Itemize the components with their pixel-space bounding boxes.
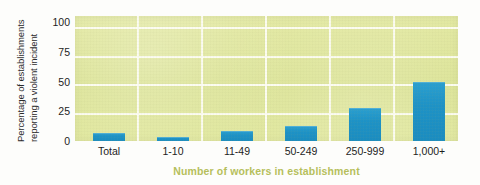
bar-1-10 xyxy=(157,137,189,141)
y-tick-label-50: 50 xyxy=(44,77,70,87)
y-tick-label-0: 0 xyxy=(44,136,70,146)
bar-250-999 xyxy=(349,108,381,141)
y-tick-label-100: 100 xyxy=(44,17,70,27)
bar-50-249 xyxy=(285,126,317,141)
gridline-x-5 xyxy=(393,16,395,141)
gridline-x-3 xyxy=(265,16,267,141)
x-tick-label-total: Total xyxy=(77,145,141,157)
x-axis-tick-labels: Total 1-10 11-49 50-249 250-999 1,000+ xyxy=(75,145,458,161)
gridline-x-4 xyxy=(329,16,331,141)
x-tick-label-1-10: 1-10 xyxy=(141,145,205,157)
bar-total xyxy=(93,133,125,141)
gridline-x-2 xyxy=(201,16,203,141)
x-tick-label-1000plus: 1,000+ xyxy=(397,145,461,157)
x-tick-label-250-999: 250-999 xyxy=(333,145,397,157)
y-axis-tick-labels: 100 75 50 25 0 xyxy=(40,0,70,185)
bar-chart-figure: Percentage of establishments reporting a… xyxy=(0,0,480,185)
bar-11-49 xyxy=(221,131,253,141)
y-axis-title-line-1: Percentage of establishments xyxy=(15,20,26,142)
x-axis-title: Number of workers in establishment xyxy=(75,165,458,177)
x-tick-label-11-49: 11-49 xyxy=(205,145,269,157)
y-axis-title-line-2: reporting a violent incident xyxy=(28,34,39,142)
x-tick-label-50-249: 50-249 xyxy=(269,145,333,157)
gridline-x-1 xyxy=(137,16,139,141)
plot-area xyxy=(75,16,458,141)
y-tick-label-75: 75 xyxy=(44,47,70,57)
y-tick-label-25: 25 xyxy=(44,106,70,116)
bar-1000plus xyxy=(413,82,445,141)
